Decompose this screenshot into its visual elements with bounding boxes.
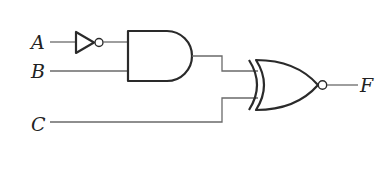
not-gate-body (76, 32, 94, 53)
logic-circuit-diagram: A B C F (0, 0, 390, 173)
input-label-b: B (30, 60, 45, 82)
and-gate (128, 31, 192, 81)
not-gate (76, 32, 103, 53)
wire-c-to-xnor (50, 98, 258, 122)
xnor-gate-body (256, 60, 318, 110)
wire-and-to-xnor (192, 56, 258, 71)
xor-input-curve (249, 60, 257, 110)
input-label-a: A (29, 31, 45, 53)
output-label-f: F (359, 74, 374, 96)
input-label-c: C (31, 113, 46, 135)
xnor-inversion-bubble (318, 81, 326, 89)
not-inversion-bubble (95, 39, 103, 47)
xnor-gate (249, 60, 327, 110)
